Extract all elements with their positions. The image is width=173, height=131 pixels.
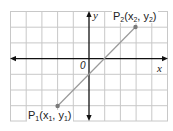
- point-p1-label: P1(x1, y1): [27, 110, 73, 122]
- point-p1: [55, 104, 59, 108]
- x-axis-label: x: [157, 63, 162, 74]
- y-axis-label: y: [93, 10, 98, 21]
- origin-label: 0: [80, 61, 86, 71]
- line-segment-p1-p2: [58, 27, 136, 106]
- y-axis-down-arrow-icon: [86, 115, 91, 121]
- point-p2-label: P2(x2, y2): [112, 11, 158, 23]
- point-p2: [133, 25, 137, 29]
